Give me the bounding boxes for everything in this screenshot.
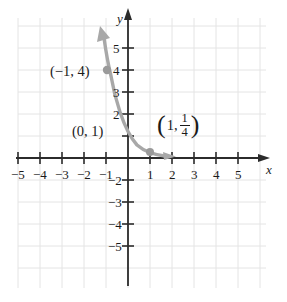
y-tick-label-5: 5 xyxy=(113,42,120,55)
x-tick-label-3: 3 xyxy=(191,168,198,181)
y-tick-label-3: 3 xyxy=(113,86,120,99)
y-tick-label-neg5: −5 xyxy=(108,240,122,253)
x-tick-label-neg2: −2 xyxy=(77,168,91,181)
y-tick-label-neg3: −3 xyxy=(108,196,122,209)
x-axis-arrowhead xyxy=(258,154,270,162)
point-marker-1-quarter xyxy=(146,148,154,156)
y-tick-label-2: 2 xyxy=(113,108,120,121)
y-axis-label: y xyxy=(117,12,123,25)
fraction-numerator: 1 xyxy=(180,112,190,125)
fraction-denominator: 4 xyxy=(180,126,190,139)
curve-arrow-up xyxy=(97,26,110,42)
open-paren: ( xyxy=(157,115,166,135)
x-tick-label-5: 5 xyxy=(235,168,242,181)
coordinate-plane-svg xyxy=(0,0,287,302)
x-tick-label-neg3: −3 xyxy=(55,168,69,181)
point-marker-neg1-4 xyxy=(103,66,111,74)
x-tick-label-2: 2 xyxy=(169,168,176,181)
y-axis-arrowhead xyxy=(124,8,132,20)
x-tick-label-neg5: −5 xyxy=(11,168,25,181)
axis-lines xyxy=(16,14,262,286)
exponential-curve xyxy=(97,26,176,160)
point-label-1-one-quarter: ( 1, 1 4 ) xyxy=(157,112,199,139)
x-axis-label: x xyxy=(266,163,272,176)
x-tick-label-4: 4 xyxy=(213,168,220,181)
exponential-decay-graph: −5 −4 −3 −2 −1 1 2 3 4 5 5 4 3 2 −2 −3 −… xyxy=(0,0,287,302)
y-tick-label-4: 4 xyxy=(113,64,120,77)
y-tick-label-neg4: −4 xyxy=(108,218,122,231)
y-tick-label-neg2: −2 xyxy=(108,174,122,187)
x-tick-label-neg4: −4 xyxy=(33,168,47,181)
frac-x-value: 1, xyxy=(167,118,178,133)
x-tick-label-1: 1 xyxy=(147,168,154,181)
point-label-0-1: (0, 1) xyxy=(72,124,103,139)
grid-lines xyxy=(18,18,266,288)
fraction-one-fourth: 1 4 xyxy=(180,112,190,139)
point-label-neg1-4: (−1, 4) xyxy=(50,64,90,79)
close-paren: ) xyxy=(191,115,200,135)
